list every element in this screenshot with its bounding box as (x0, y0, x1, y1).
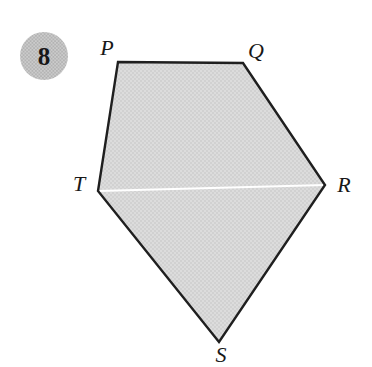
vertex-label-Q: Q (248, 38, 264, 63)
vertex-label-S: S (216, 342, 227, 367)
pentagon-fill (98, 62, 325, 342)
geometry-figure: 8 P Q R S T (0, 0, 372, 367)
vertex-label-T: T (73, 171, 87, 196)
vertex-label-P: P (99, 35, 113, 60)
vertex-label-R: R (336, 172, 351, 197)
figure-canvas: 8 P Q R S T (0, 0, 372, 367)
problem-number: 8 (38, 43, 51, 70)
